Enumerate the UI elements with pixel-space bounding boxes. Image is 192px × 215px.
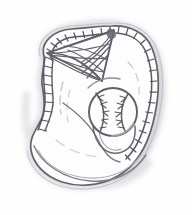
baseball-glove-sketch [0,0,192,215]
sketch-canvas: Hand-drawn pencil sketch of a baseball g… [0,0,192,215]
baseball [89,88,137,136]
